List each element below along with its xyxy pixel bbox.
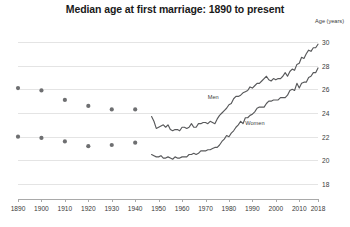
y-tick-label: 28 <box>322 62 329 69</box>
series-marker-women <box>39 136 43 140</box>
series-marker-men <box>16 86 20 90</box>
series-line-women <box>152 68 318 159</box>
plot-area: MenWomen <box>18 30 318 196</box>
series-marker-women <box>16 135 20 139</box>
x-tick-label: 1900 <box>34 205 49 212</box>
x-axis-line <box>18 199 318 200</box>
x-tick-label: 1890 <box>11 205 26 212</box>
y-tick-label: 30 <box>322 38 329 45</box>
y-axis-ticks: 30282624222018 <box>322 30 348 196</box>
y-tick-label: 22 <box>322 133 329 140</box>
y-axis-label: Age (years) <box>315 18 344 24</box>
series-marker-men <box>63 98 67 102</box>
x-tick-label: 1910 <box>58 205 73 212</box>
x-tick-label: 1980 <box>222 205 237 212</box>
x-tick-label: 2000 <box>268 205 283 212</box>
series-marker-women <box>133 141 137 145</box>
series-marker-women <box>110 143 114 147</box>
x-tick-label: 1950 <box>151 205 166 212</box>
x-tick-mark <box>159 199 160 202</box>
y-tick-label: 18 <box>322 181 329 188</box>
y-tick-label: 26 <box>322 86 329 93</box>
x-tick-mark <box>182 199 183 202</box>
x-tick-label: 1970 <box>198 205 213 212</box>
x-tick-mark <box>135 199 136 202</box>
x-tick-label: 1930 <box>104 205 119 212</box>
chart-title: Median age at first marriage: 1890 to pr… <box>0 3 350 15</box>
series-marker-women <box>86 144 90 148</box>
x-tick-mark <box>252 199 253 202</box>
x-tick-mark <box>112 199 113 202</box>
y-tick-label: 24 <box>322 110 329 117</box>
series-annotation-women: Women <box>245 120 264 126</box>
x-tick-label: 1960 <box>175 205 190 212</box>
series-marker-men <box>86 104 90 108</box>
x-tick-mark <box>65 199 66 202</box>
y-tick-label: 20 <box>322 157 329 164</box>
x-tick-label: 2010 <box>292 205 307 212</box>
series-annotation-men: Men <box>208 94 219 100</box>
series-marker-men <box>39 88 43 92</box>
series-marker-men <box>110 107 114 111</box>
x-tick-mark <box>229 199 230 202</box>
series-marker-men <box>133 107 137 111</box>
x-tick-label: 1990 <box>245 205 260 212</box>
x-tick-mark <box>41 199 42 202</box>
series-marker-women <box>63 139 67 143</box>
x-tick-mark <box>88 199 89 202</box>
x-tick-mark <box>318 199 319 202</box>
series-line-men <box>152 44 318 131</box>
x-tick-mark <box>276 199 277 202</box>
x-tick-label: 1940 <box>128 205 143 212</box>
series-layer <box>18 30 318 196</box>
x-tick-mark <box>18 199 19 202</box>
x-tick-label: 1920 <box>81 205 96 212</box>
x-tick-mark <box>206 199 207 202</box>
x-tick-mark <box>299 199 300 202</box>
x-tick-label: 2018 <box>311 205 326 212</box>
chart-container: Median age at first marriage: 1890 to pr… <box>0 0 350 227</box>
